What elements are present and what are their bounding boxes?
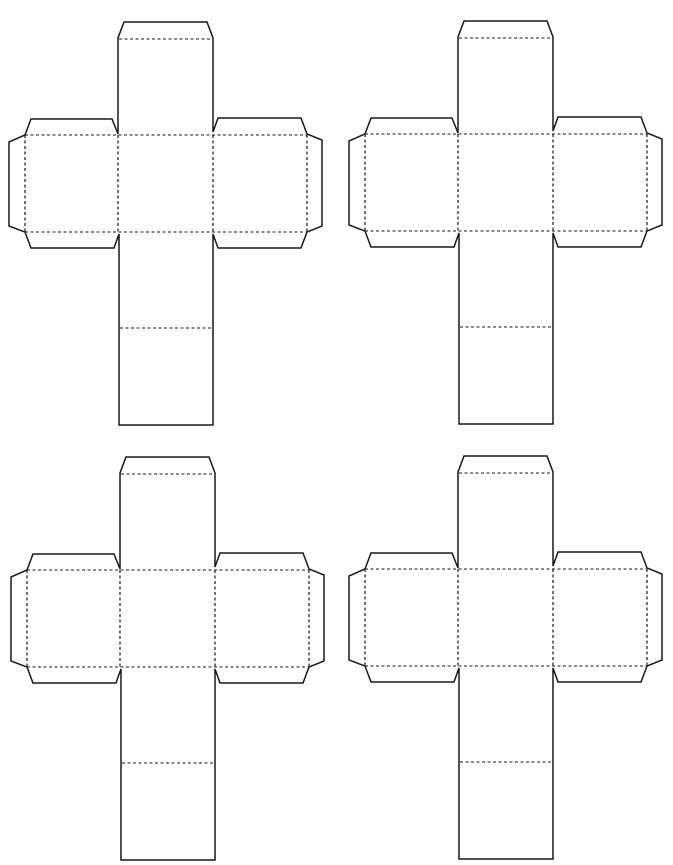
cube-net-bottom-right (349, 456, 662, 859)
net-outline (349, 21, 662, 424)
net-outline (9, 22, 322, 425)
cube-net-sheet (0, 0, 673, 865)
cube-net-top-left (9, 22, 322, 425)
cube-net-top-right (349, 21, 662, 424)
cube-net-bottom-left (11, 457, 324, 860)
net-outline (11, 457, 324, 860)
net-outline (349, 456, 662, 859)
